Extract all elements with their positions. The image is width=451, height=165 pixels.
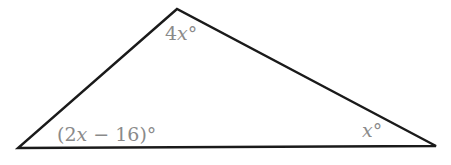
angle-label-bottom-left: (2x − 16)° xyxy=(57,123,156,145)
angle-top-var: x xyxy=(177,22,188,44)
angle-br-var: x xyxy=(362,119,373,141)
triangle-diagram: 4x° (2x − 16)° x° xyxy=(0,0,451,165)
angle-bl-var: x xyxy=(77,123,88,145)
angle-label-top: 4x° xyxy=(165,22,197,44)
angle-top-coef: 4 xyxy=(165,22,177,44)
angle-br-suffix: ° xyxy=(373,119,383,141)
angle-label-bottom-right: x° xyxy=(362,119,382,141)
angle-bl-prefix: (2 xyxy=(57,123,77,145)
angle-top-suffix: ° xyxy=(188,22,198,44)
angle-bl-suffix: − 16)° xyxy=(87,123,156,145)
triangle-svg: 4x° (2x − 16)° x° xyxy=(0,0,451,165)
